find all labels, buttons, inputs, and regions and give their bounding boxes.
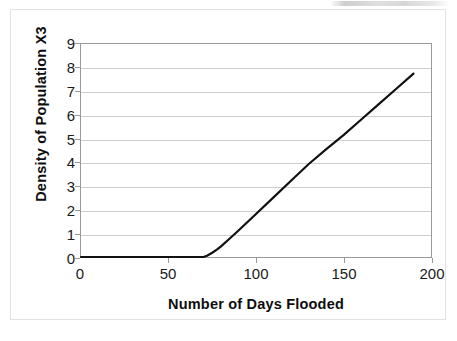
x-axis-tick-mark — [344, 258, 345, 263]
y-axis-tick-label: 9 — [59, 36, 75, 51]
y-axis-tick-label: 5 — [59, 132, 75, 147]
x-axis-tick-mark — [168, 258, 169, 263]
x-axis-tick-label: 150 — [331, 266, 356, 281]
scan-artifact — [330, 1, 450, 6]
y-axis-tick-label: 8 — [59, 60, 75, 75]
x-axis-tick-label: 100 — [243, 266, 268, 281]
y-axis-tick-label: 7 — [59, 84, 75, 99]
chart-frame: Density of Population X3 9876543210 0501… — [10, 9, 446, 320]
x-axis-tick-marks — [80, 258, 432, 264]
y-axis-tick-label: 1 — [59, 227, 75, 242]
x-axis-tick-label: 50 — [160, 266, 177, 281]
line-series-density-of-population-x3 — [81, 44, 431, 257]
plot-area — [80, 43, 432, 258]
x-axis-tick-mark — [256, 258, 257, 263]
x-axis-title: Number of Days Flooded — [80, 296, 432, 312]
x-axis-tick-label: 200 — [419, 266, 444, 281]
y-axis-title: Density of Population X3 — [33, 4, 49, 224]
y-axis-tick-label: 4 — [59, 155, 75, 170]
y-axis-tick-label: 0 — [59, 251, 75, 266]
y-axis-tick-label: 6 — [59, 108, 75, 123]
x-axis-tick-labels: 050100150200 — [80, 266, 432, 286]
y-axis-tick-labels: 9876543210 — [57, 43, 75, 258]
x-axis-tick-label: 0 — [76, 266, 84, 281]
y-axis-tick-label: 2 — [59, 203, 75, 218]
x-axis-tick-mark — [432, 258, 433, 263]
y-axis-tick-label: 3 — [59, 179, 75, 194]
